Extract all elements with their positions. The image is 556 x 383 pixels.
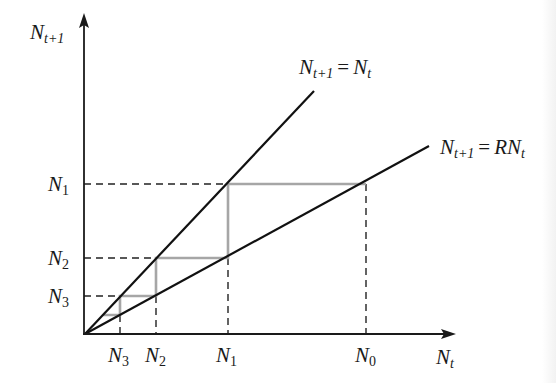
y-tick-n1: N1 [48,174,69,198]
x-tick-n2: N2 [145,345,166,369]
y-tick-n2: N2 [48,248,69,272]
identity-line [85,91,314,334]
cobweb-path [103,184,366,315]
cobweb-diagram: Nt+1 Nt Nt+1=Nt Nt+1=RNt N1 N2 N3 N3 N2 … [0,0,556,383]
y-axis-label: Nt+1 [30,22,64,46]
x-tick-n1: N1 [216,345,237,369]
x-tick-n3: N3 [108,345,129,369]
x-tick-n0: N0 [355,345,376,369]
diagram-svg [0,0,556,383]
x-axis-label: Nt [436,347,454,371]
recruitment-line-label: Nt+1=RNt [440,137,525,161]
y-tick-n3: N3 [48,286,69,310]
identity-line-label: Nt+1=Nt [299,57,371,81]
recruitment-line [85,146,429,334]
